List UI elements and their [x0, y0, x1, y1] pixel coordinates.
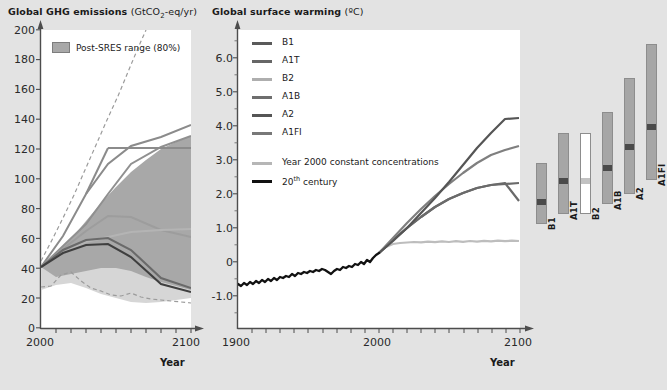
best-estimate-marker-a1t [559, 178, 568, 184]
range-bar-label-b1: B1 [547, 218, 557, 231]
best-estimate-marker-a2 [625, 144, 634, 150]
range-bar-label-a1fi: A1FI [657, 164, 667, 186]
range-bar-a1fi [646, 44, 657, 180]
range-bar-label-a1b: A1B [613, 190, 623, 210]
best-estimate-marker-a1b [603, 165, 612, 171]
range-bar-a1t [558, 133, 569, 215]
range-bar-b2 [580, 133, 591, 215]
range-bar-label-a2: A2 [635, 187, 645, 200]
best-estimate-marker-a1fi [647, 124, 656, 130]
best-estimate-marker-b2 [581, 178, 590, 184]
best-estimate-marker-b1 [537, 199, 546, 205]
range-bar-a1b [602, 112, 613, 204]
range-bar-label-a1t: A1T [569, 201, 579, 220]
range-bar-a2 [624, 78, 635, 194]
range-bar-label-b2: B2 [591, 207, 601, 220]
range-bar-b1 [536, 163, 547, 224]
